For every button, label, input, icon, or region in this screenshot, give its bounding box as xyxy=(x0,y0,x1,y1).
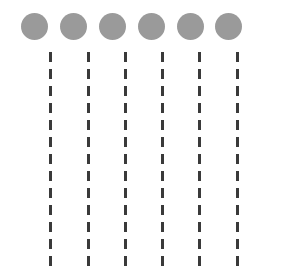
vertical-dashed-line xyxy=(49,52,52,264)
dash-segment xyxy=(198,256,201,266)
dash-segment xyxy=(49,205,52,215)
dash-segment xyxy=(198,154,201,164)
dash-segment xyxy=(236,188,239,198)
dash-segment xyxy=(49,137,52,147)
dash-segment xyxy=(124,86,127,96)
dash-segment xyxy=(87,52,90,62)
dash-segment xyxy=(198,222,201,232)
dash-segment xyxy=(124,154,127,164)
dash-segment xyxy=(161,171,164,181)
vertical-dashed-line xyxy=(198,52,201,264)
dash-segment xyxy=(198,69,201,79)
dash-segment xyxy=(124,171,127,181)
dash-segment xyxy=(161,103,164,113)
dash-segment xyxy=(236,137,239,147)
dash-segment xyxy=(87,188,90,198)
dash-segment xyxy=(198,239,201,249)
dash-segment xyxy=(236,103,239,113)
dash-segment xyxy=(124,256,127,266)
dash-segment xyxy=(236,256,239,266)
dash-segment xyxy=(49,188,52,198)
dash-segment xyxy=(236,120,239,130)
dash-segment xyxy=(124,103,127,113)
vertical-dashed-line xyxy=(161,52,164,264)
dash-segment xyxy=(198,137,201,147)
dash-segment xyxy=(161,154,164,164)
dash-segment xyxy=(161,137,164,147)
dash-segment xyxy=(49,222,52,232)
vertical-dashed-line xyxy=(236,52,239,264)
dash-segment xyxy=(161,239,164,249)
figure-canvas xyxy=(0,0,283,269)
dash-segment xyxy=(161,52,164,62)
dashed-line-layer xyxy=(0,0,283,269)
dash-segment xyxy=(87,120,90,130)
dash-segment xyxy=(161,205,164,215)
dash-segment xyxy=(124,69,127,79)
dash-segment xyxy=(87,222,90,232)
dash-segment xyxy=(198,188,201,198)
dash-segment xyxy=(87,154,90,164)
dash-segment xyxy=(236,86,239,96)
vertical-dashed-line xyxy=(124,52,127,264)
dash-segment xyxy=(49,86,52,96)
dash-segment xyxy=(49,120,52,130)
dash-segment xyxy=(87,137,90,147)
dash-segment xyxy=(161,222,164,232)
dash-segment xyxy=(49,52,52,62)
dash-segment xyxy=(49,69,52,79)
dash-segment xyxy=(87,103,90,113)
dash-segment xyxy=(198,52,201,62)
dash-segment xyxy=(236,52,239,62)
dash-segment xyxy=(124,222,127,232)
dash-segment xyxy=(87,86,90,96)
dash-segment xyxy=(87,171,90,181)
dash-segment xyxy=(87,69,90,79)
dash-segment xyxy=(198,205,201,215)
dash-segment xyxy=(124,137,127,147)
dash-segment xyxy=(124,239,127,249)
dash-segment xyxy=(198,103,201,113)
dash-segment xyxy=(49,239,52,249)
dash-segment xyxy=(161,86,164,96)
dash-segment xyxy=(124,205,127,215)
dash-segment xyxy=(87,205,90,215)
dash-segment xyxy=(236,222,239,232)
dash-segment xyxy=(124,52,127,62)
dash-segment xyxy=(198,120,201,130)
dash-segment xyxy=(87,256,90,266)
dash-segment xyxy=(87,239,90,249)
dash-segment xyxy=(124,188,127,198)
dash-segment xyxy=(161,120,164,130)
dash-segment xyxy=(161,69,164,79)
dash-segment xyxy=(198,86,201,96)
dash-segment xyxy=(124,120,127,130)
dash-segment xyxy=(49,256,52,266)
dash-segment xyxy=(236,239,239,249)
dash-segment xyxy=(236,154,239,164)
dash-segment xyxy=(236,171,239,181)
dash-segment xyxy=(49,154,52,164)
dash-segment xyxy=(49,103,52,113)
vertical-dashed-line xyxy=(87,52,90,264)
dash-segment xyxy=(161,256,164,266)
dash-segment xyxy=(49,171,52,181)
dash-segment xyxy=(198,171,201,181)
dash-segment xyxy=(161,188,164,198)
dash-segment xyxy=(236,205,239,215)
dash-segment xyxy=(236,69,239,79)
